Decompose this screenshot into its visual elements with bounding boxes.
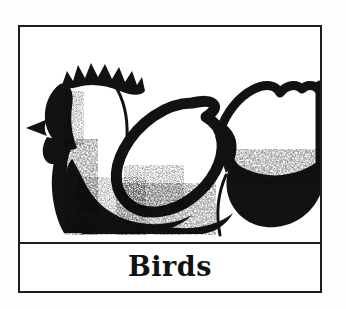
tail-base-line (218, 175, 226, 235)
illustration-panel (20, 27, 320, 244)
rooster-illustration-svg (20, 27, 320, 242)
caption-panel: Birds (20, 244, 320, 291)
comb-shape (62, 63, 145, 95)
beak-shape (26, 119, 48, 136)
category-label: Birds (128, 253, 212, 280)
page-root: Birds (0, 0, 346, 309)
rooster-figure (26, 63, 320, 235)
illustration-card: Birds (18, 25, 322, 293)
